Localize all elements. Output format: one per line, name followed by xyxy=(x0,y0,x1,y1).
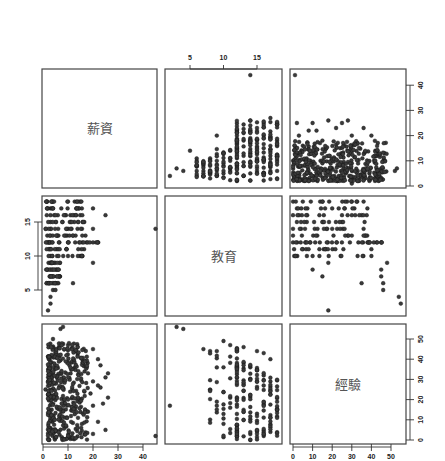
bottom-axis-tick-label: 0 xyxy=(41,453,45,460)
data-point xyxy=(46,397,50,401)
data-point xyxy=(318,247,322,251)
data-point xyxy=(61,254,65,258)
data-point xyxy=(293,139,297,143)
data-point xyxy=(53,418,57,422)
data-point xyxy=(228,178,232,182)
data-point xyxy=(106,371,110,375)
data-point xyxy=(385,261,389,265)
data-point xyxy=(76,392,80,396)
data-point xyxy=(235,162,239,166)
data-point xyxy=(385,152,389,156)
data-point xyxy=(360,241,364,245)
data-point xyxy=(96,357,100,361)
data-point xyxy=(336,178,340,182)
data-point xyxy=(349,175,353,179)
data-point xyxy=(57,386,61,390)
data-point xyxy=(91,261,95,265)
data-point xyxy=(255,421,259,425)
data-point xyxy=(91,207,95,211)
data-point xyxy=(275,120,279,124)
data-point xyxy=(82,389,86,393)
data-point xyxy=(235,119,239,123)
data-point xyxy=(269,416,273,420)
data-point xyxy=(269,357,273,361)
data-point xyxy=(357,213,361,217)
data-point xyxy=(222,176,226,180)
data-point xyxy=(248,438,252,442)
data-point xyxy=(305,171,309,175)
data-point xyxy=(64,353,68,357)
data-point xyxy=(228,148,232,152)
data-point xyxy=(52,268,56,272)
data-point xyxy=(235,127,239,131)
data-point xyxy=(360,142,364,146)
data-point xyxy=(248,179,252,183)
data-point xyxy=(304,207,308,211)
data-point xyxy=(181,327,185,331)
data-point xyxy=(66,207,70,211)
data-point xyxy=(334,126,338,130)
data-point xyxy=(255,160,259,164)
bottom-axis-tick-label: 20 xyxy=(328,453,336,460)
data-point xyxy=(49,213,53,217)
data-point xyxy=(64,378,68,382)
data-point xyxy=(349,179,353,183)
data-point xyxy=(323,144,327,148)
data-point xyxy=(248,397,252,401)
data-point xyxy=(299,207,303,211)
data-point xyxy=(215,408,219,412)
data-point xyxy=(54,288,58,292)
data-point xyxy=(361,156,365,160)
data-point xyxy=(341,152,345,156)
data-point xyxy=(76,220,80,224)
data-point xyxy=(195,160,199,164)
data-point xyxy=(255,131,259,135)
data-point xyxy=(222,412,226,416)
data-point xyxy=(275,404,279,408)
data-point xyxy=(57,241,61,245)
data-point xyxy=(341,163,345,167)
data-point xyxy=(248,393,252,397)
data-point xyxy=(66,254,70,258)
data-point xyxy=(91,380,95,384)
scatterplot-matrix: 薪資 教育 經驗 5101501020304051015010203040500… xyxy=(0,0,445,461)
data-point xyxy=(376,168,380,172)
data-point xyxy=(71,281,75,285)
data-point xyxy=(76,254,80,258)
data-point xyxy=(337,207,341,211)
data-point xyxy=(235,405,239,409)
data-point xyxy=(335,158,339,162)
data-point xyxy=(340,213,344,217)
data-point xyxy=(248,119,252,123)
data-point xyxy=(222,422,226,426)
data-point xyxy=(339,176,343,180)
data-point xyxy=(248,124,252,128)
data-point xyxy=(269,163,273,167)
data-point xyxy=(208,397,212,401)
data-point xyxy=(399,302,403,306)
data-point xyxy=(59,353,63,357)
data-point xyxy=(208,389,212,393)
data-point xyxy=(362,179,366,183)
data-point xyxy=(293,148,297,152)
data-point xyxy=(248,172,252,176)
data-point xyxy=(328,166,332,170)
data-point xyxy=(362,173,366,177)
data-point xyxy=(235,367,239,371)
data-point xyxy=(304,213,308,217)
data-point xyxy=(228,394,232,398)
data-point xyxy=(181,169,185,173)
data-point xyxy=(66,434,70,438)
data-point xyxy=(262,404,266,408)
data-point xyxy=(215,147,219,151)
data-point xyxy=(362,126,366,130)
data-point xyxy=(316,140,320,144)
data-point xyxy=(306,142,310,146)
data-point xyxy=(50,430,54,434)
data-point xyxy=(248,372,252,376)
data-point xyxy=(222,156,226,160)
data-point xyxy=(235,427,239,431)
data-point xyxy=(366,207,370,211)
data-point xyxy=(275,156,279,160)
data-point xyxy=(395,167,399,171)
